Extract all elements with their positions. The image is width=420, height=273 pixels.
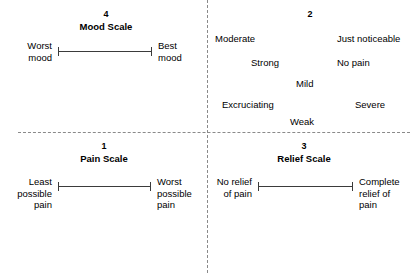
descriptor-word[interactable]: Moderate — [215, 33, 255, 44]
mood-scale-title: Mood Scale — [56, 21, 156, 32]
vas-figure: 4 Mood Scale Worstmood Bestmood 2 Modera… — [0, 0, 420, 273]
relief-scale-left-anchor: No reliefof pain — [217, 176, 252, 199]
relief-scale-right-tick — [352, 182, 353, 191]
relief-scale-left-tick — [258, 182, 259, 191]
descriptor-word[interactable]: Severe — [355, 99, 385, 110]
pain-scale-bar — [58, 186, 151, 187]
vertical-divider — [207, 0, 208, 273]
pain-scale-right-anchor: Worstpossiblepain — [157, 176, 192, 211]
descriptor-words-heading: 2 — [260, 9, 360, 20]
descriptor-word[interactable]: Mild — [296, 78, 313, 89]
relief-scale-line[interactable] — [258, 182, 353, 191]
relief-scale-right-anchor: Completerelief ofpain — [359, 176, 400, 211]
descriptor-word[interactable]: Just noticeable — [337, 33, 400, 44]
horizontal-divider — [18, 132, 410, 133]
pain-scale-right-tick — [150, 182, 151, 191]
descriptor-word[interactable]: Weak — [290, 116, 314, 127]
mood-scale-heading: 4 Mood Scale — [56, 9, 156, 32]
pain-scale-heading: 1 Pain Scale — [54, 141, 154, 164]
pain-scale-left-tick — [58, 182, 59, 191]
descriptor-word[interactable]: Strong — [251, 57, 279, 68]
mood-scale-left-anchor: Worstmood — [27, 40, 52, 63]
pain-scale-left-anchor: Leastpossiblepain — [17, 176, 52, 211]
relief-scale-title: Relief Scale — [254, 153, 354, 164]
pain-scale-line[interactable] — [58, 182, 151, 191]
relief-scale-heading: 3 Relief Scale — [254, 141, 354, 164]
mood-scale-right-anchor: Bestmood — [158, 40, 182, 63]
pain-scale-title: Pain Scale — [54, 153, 154, 164]
descriptor-word[interactable]: No pain — [337, 57, 370, 68]
relief-scale-number: 3 — [254, 141, 354, 152]
descriptor-word[interactable]: Excruciating — [222, 99, 274, 110]
mood-scale-bar — [58, 51, 152, 52]
mood-scale-number: 4 — [56, 9, 156, 20]
pain-scale-number: 1 — [54, 141, 154, 152]
mood-scale-left-tick — [58, 47, 59, 56]
relief-scale-bar — [258, 186, 353, 187]
mood-scale-right-tick — [151, 47, 152, 56]
descriptor-words-number: 2 — [260, 9, 360, 20]
mood-scale-line[interactable] — [58, 47, 152, 56]
